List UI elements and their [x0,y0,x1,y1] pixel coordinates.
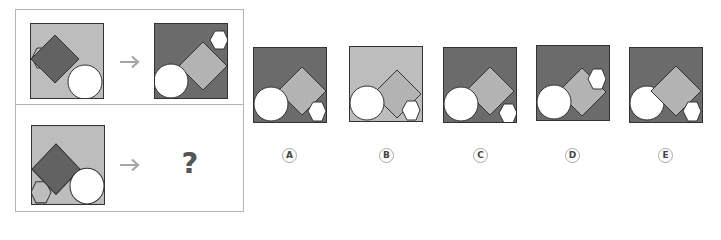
option-c-tile[interactable] [443,47,517,123]
arrow-right-icon [119,55,141,69]
option-d-label[interactable]: D [565,148,580,163]
frame-divider [15,104,244,105]
example-source-tile [30,23,104,99]
option-a-tile[interactable] [253,47,327,123]
option-e-tile[interactable] [629,47,703,123]
option-d-tile[interactable] [536,45,610,121]
option-b-tile[interactable] [349,46,423,122]
option-c-label[interactable]: C [473,148,488,163]
option-e-label[interactable]: E [658,148,673,163]
option-a-label[interactable]: A [282,148,297,163]
option-b-label[interactable]: B [379,148,394,163]
arrow-right-icon [119,158,141,172]
example-result-tile [154,23,228,99]
question-mark: ? [176,146,204,180]
question-source-tile [31,125,105,205]
